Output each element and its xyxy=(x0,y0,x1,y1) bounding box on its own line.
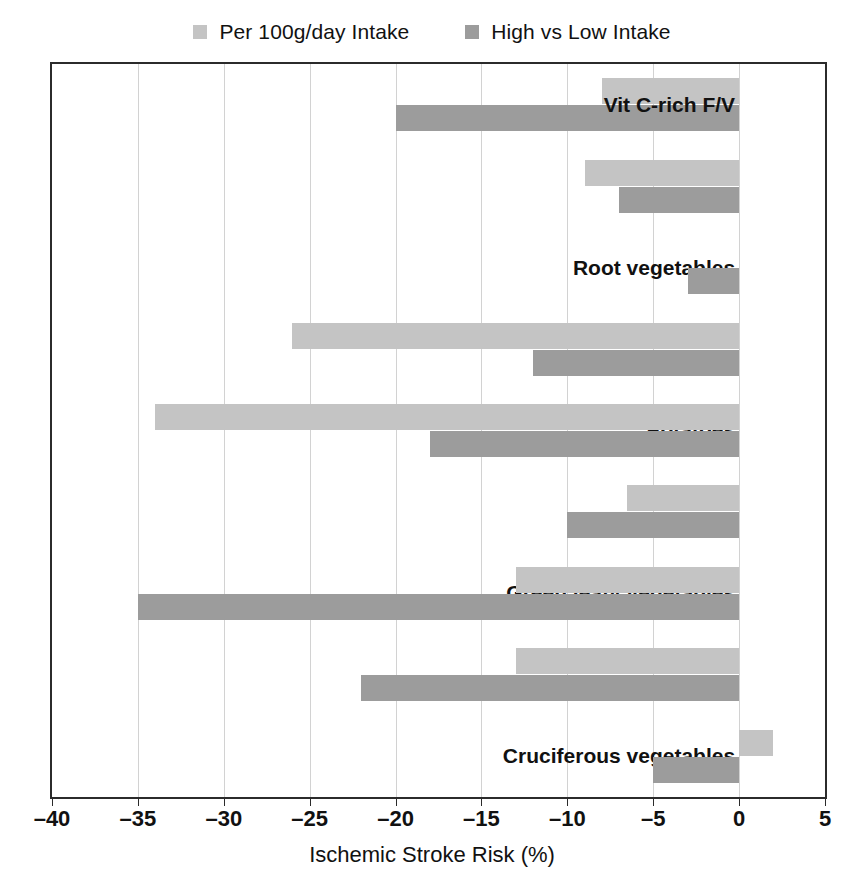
x-tick-mark xyxy=(310,799,311,806)
bar-row: Allium vegetables xyxy=(52,471,825,552)
bar-per-100g xyxy=(292,323,739,349)
x-tick-mark xyxy=(825,799,826,806)
bar-row: Cruciferous vegetables xyxy=(52,390,825,471)
x-tick-mark xyxy=(481,799,482,806)
x-tick-label: –5 xyxy=(641,806,665,832)
x-tick-mark xyxy=(653,799,654,806)
bar-high-vs-low xyxy=(653,757,739,783)
legend-swatch-high-vs-low xyxy=(465,25,479,39)
x-tick-mark xyxy=(739,799,740,806)
x-tick-label: –20 xyxy=(377,806,414,832)
bar-row: 100% Citrus fruit juices xyxy=(52,553,825,634)
bar-row: Citrus fruit xyxy=(52,634,825,715)
bar-per-100g xyxy=(585,160,740,186)
legend-item-high-vs-low[interactable]: High vs Low Intake xyxy=(465,20,670,44)
legend-swatch-per-100g xyxy=(193,25,207,39)
x-tick-label: 0 xyxy=(733,806,745,832)
x-tick-mark xyxy=(52,799,53,806)
legend-label-per-100g: Per 100g/day Intake xyxy=(219,20,409,44)
bar-high-vs-low xyxy=(430,431,739,457)
x-tick-mark xyxy=(396,799,397,806)
bar-row: Berries xyxy=(52,716,825,797)
x-tick-mark xyxy=(138,799,139,806)
bar-high-vs-low xyxy=(533,350,739,376)
x-axis-title: Ischemic Stroke Risk (%) xyxy=(0,842,864,868)
legend-label-high-vs-low: High vs Low Intake xyxy=(491,20,670,44)
x-tick-label: –10 xyxy=(549,806,586,832)
legend-item-per-100g[interactable]: Per 100g/day Intake xyxy=(193,20,409,44)
bar-row: Potatoes xyxy=(52,227,825,308)
bar-per-100g xyxy=(627,485,739,511)
bar-high-vs-low xyxy=(138,594,739,620)
category-label: Vit C-rich F/V xyxy=(604,93,735,117)
chart-legend: Per 100g/day Intake High vs Low Intake xyxy=(0,20,864,44)
bar-row: Green leafy vegetables xyxy=(52,308,825,389)
bar-per-100g xyxy=(516,567,739,593)
x-tick-label: –15 xyxy=(463,806,500,832)
bar-row: Vit C-rich F/V xyxy=(52,64,825,145)
x-tick-mark xyxy=(567,799,568,806)
x-tick-label: –35 xyxy=(120,806,157,832)
bar-high-vs-low xyxy=(688,268,740,294)
x-tick-label: –25 xyxy=(291,806,328,832)
bar-high-vs-low xyxy=(619,187,739,213)
x-tick-mark xyxy=(224,799,225,806)
bar-per-100g xyxy=(516,648,739,674)
bar-per-100g xyxy=(155,404,739,430)
x-tick-label: –30 xyxy=(205,806,242,832)
bar-row: Root vegetables xyxy=(52,145,825,226)
bar-per-100g xyxy=(739,730,773,756)
chart-root: Per 100g/day Intake High vs Low Intake V… xyxy=(0,0,864,894)
bar-high-vs-low xyxy=(361,675,739,701)
plot-area: Vit C-rich F/VRoot vegetablesPotatoesGre… xyxy=(50,62,827,799)
x-tick-label: –40 xyxy=(34,806,71,832)
plot-inner: Vit C-rich F/VRoot vegetablesPotatoesGre… xyxy=(52,64,825,797)
bar-high-vs-low xyxy=(567,512,739,538)
x-tick-label: 5 xyxy=(819,806,831,832)
